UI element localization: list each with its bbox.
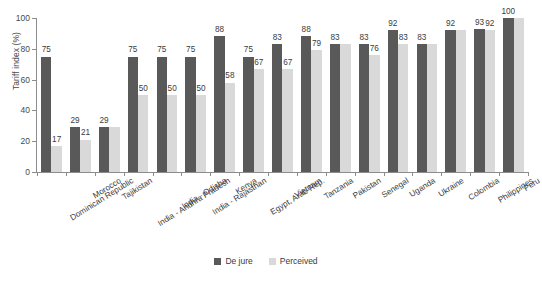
bar-pair <box>499 18 528 172</box>
chart-legend: De jurePerceived <box>0 256 532 266</box>
bar-value-label-de-jure: 88 <box>211 26 227 34</box>
bar-value-label-de-jure: 75 <box>182 46 198 54</box>
bar-value-label-perceived: 92 <box>482 20 498 28</box>
x-axis-tick-mark <box>384 172 385 176</box>
bar-perceived <box>369 55 379 172</box>
bar-perceived <box>282 69 292 172</box>
bar-de-jure <box>474 29 484 172</box>
legend-swatch-icon <box>269 258 276 265</box>
bar-pair <box>124 18 153 172</box>
x-axis-category-label: India - Rajasthan <box>212 177 269 217</box>
x-axis-tick-mark <box>153 172 154 176</box>
bar-group: 7517 <box>37 18 66 172</box>
bar-group: 100 <box>499 18 528 172</box>
bar-value-label-perceived: 21 <box>77 129 93 137</box>
bar-de-jure <box>503 18 513 172</box>
bar-perceived <box>51 146 61 172</box>
bar-value-label-perceived: 83 <box>395 34 411 42</box>
x-axis-tick-mark <box>210 172 211 176</box>
bar-de-jure <box>359 44 369 172</box>
bar-group: 92 <box>441 18 470 172</box>
bar-perceived <box>225 83 235 172</box>
bar-pair <box>37 18 66 172</box>
legend-item[interactable]: De jure <box>214 256 252 266</box>
bar-perceived <box>340 44 350 172</box>
bar-group: 8376 <box>355 18 384 172</box>
bar-value-label-perceived: 67 <box>279 59 295 67</box>
bar-group: 83 <box>412 18 441 172</box>
bar-de-jure <box>243 57 253 173</box>
bar-de-jure <box>99 127 109 172</box>
bar-value-label-perceived: 50 <box>164 85 180 93</box>
legend-item[interactable]: Perceived <box>269 256 318 266</box>
bar-pair <box>210 18 239 172</box>
x-axis-tick-mark <box>268 172 269 176</box>
bar-perceived <box>138 95 148 172</box>
bar-de-jure <box>128 57 138 173</box>
x-axis-category-label: Egypt, Arab Rep. <box>269 177 326 217</box>
bar-group: 9392 <box>470 18 499 172</box>
bar-value-label-perceived: 58 <box>222 72 238 80</box>
bar-value-label-perceived: 79 <box>308 40 324 48</box>
bar-value-label-de-jure: 92 <box>442 20 458 28</box>
bar-de-jure <box>301 36 311 172</box>
x-axis-tick-mark <box>66 172 67 176</box>
bar-value-label-de-jure: 83 <box>356 34 372 42</box>
bar-de-jure <box>157 57 167 173</box>
bar-perceived <box>485 30 495 172</box>
bar-perceived <box>398 44 408 172</box>
bar-perceived <box>109 127 119 172</box>
x-axis-category-label: Uganda <box>409 177 438 199</box>
bar-de-jure <box>388 30 398 172</box>
bar-value-label-de-jure: 83 <box>414 34 430 42</box>
y-axis-tick-label: 60 <box>8 76 30 85</box>
bar-group: 7567 <box>239 18 268 172</box>
bar-de-jure <box>214 36 224 172</box>
bar-value-label-perceived: 76 <box>366 45 382 53</box>
bar-value-label-perceived: 17 <box>48 136 64 144</box>
bar-perceived <box>456 30 466 172</box>
bar-value-label-de-jure: 75 <box>240 46 256 54</box>
x-axis-category-label: Colombia <box>467 177 501 202</box>
x-axis-tick-mark <box>181 172 182 176</box>
y-axis-tick-label: 100 <box>8 14 30 23</box>
x-axis-tick-mark <box>95 172 96 176</box>
bar-value-label-de-jure: 92 <box>385 20 401 28</box>
x-axis-category-label: Ukraine <box>438 177 466 199</box>
bar-group: 7550 <box>124 18 153 172</box>
bar-value-label-perceived: 67 <box>251 59 267 67</box>
x-axis-tick-mark <box>528 172 529 176</box>
x-axis-tick-mark <box>297 172 298 176</box>
bar-value-label-perceived: 50 <box>193 85 209 93</box>
bar-value-label-de-jure: 29 <box>67 117 83 125</box>
bar-de-jure <box>185 57 195 173</box>
bar-pair <box>181 18 210 172</box>
bar-group: 8367 <box>268 18 297 172</box>
bar-value-label-de-jure: 75 <box>125 46 141 54</box>
bar-de-jure <box>330 44 340 172</box>
y-axis-tick-label: 0 <box>8 168 30 177</box>
bar-pair <box>66 18 95 172</box>
bar-perceived <box>80 140 90 172</box>
bar-perceived <box>196 95 206 172</box>
bar-perceived <box>311 50 321 172</box>
y-axis-tick-labels: 100806040200 <box>6 0 30 281</box>
x-axis-tick-mark <box>355 172 356 176</box>
bar-value-label-de-jure: 88 <box>298 26 314 34</box>
bar-pair <box>441 18 470 172</box>
x-axis-category-label: Senegal <box>380 177 410 200</box>
bar-de-jure <box>445 30 455 172</box>
x-axis-category-label: Dominican Republic <box>69 177 135 223</box>
y-axis-tick-label: 80 <box>8 45 30 54</box>
bar-pair <box>153 18 182 172</box>
plot-area: 7517292129755075507550885875678367887983… <box>37 18 528 172</box>
bar-group: 8858 <box>210 18 239 172</box>
x-axis-category-label: Tanzania <box>323 177 355 201</box>
bar-pair <box>239 18 268 172</box>
bar-value-label-de-jure: 75 <box>38 46 54 54</box>
bar-value-label-de-jure: 75 <box>154 46 170 54</box>
y-axis-tick-label: 20 <box>8 137 30 146</box>
legend-label: De jure <box>225 256 252 266</box>
bar-group: 7550 <box>181 18 210 172</box>
